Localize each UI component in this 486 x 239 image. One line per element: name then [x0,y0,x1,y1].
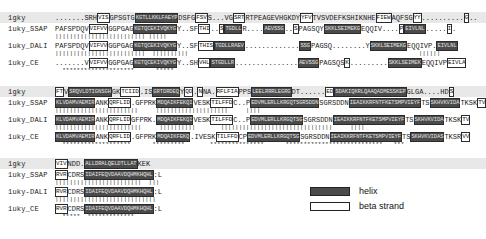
sequence-label: 1uky-DALI [0,188,55,196]
coil-segment: ......... [350,59,388,67]
sequence-residues: VIVNDD.ALLDRALQELDTLLATKEK [55,159,486,169]
helix-swatch-icon [310,187,350,196]
coil-segment: GK [112,88,120,96]
coil-segment: Y..SF [177,25,198,33]
coil-segment: TKSK [460,99,477,107]
sequence-residues: .......SRHVISGPSGTGKGTLLKKLFAEYPDSFGFSVS… [55,13,486,23]
coil-segment: GGPGAG [108,42,133,50]
sequence-residues: .......VVIFVVGGPGAGKGTQCEKIVQKYGY..SHVHL… [55,58,486,68]
beta-strand-segment: TV [461,115,470,125]
helix-segment: SKHVKVIDAS [410,132,444,142]
sequence-residues: KLVDAMVAEMIRANKQRFLID.GFPRKMDQAIKFEKQIVE… [55,98,486,108]
coil-segment: .......V [55,59,89,67]
beta-strand-segment: VV [461,132,470,142]
coil-segment: :L [154,205,162,213]
helix-segment: MDQAIKFEKQI [156,115,193,125]
beta-strand-segment: VIS [97,13,110,23]
helix-segment: EDVMLERLLKRGQTSG [247,132,300,142]
coil-segment: Y..SH [177,59,198,67]
helix-segment: EDVMLERLLKRGQTSG [250,115,303,125]
coil-segment: .. [285,25,293,33]
coil-segment: .GFPRK [131,133,156,141]
sequence-label: 1uky_CE [0,133,55,141]
legend-item-beta-strand: beta strand [310,201,404,211]
helix-segment: MDQAIKFEKQI [156,98,193,108]
sequence-residues: RVRCDRSIDAIFEQVDAAVDQHMKHQHL:L [55,204,486,214]
beta-strand-segment: S [449,87,455,97]
beta-strand-swatch-icon [310,202,350,211]
beta-strand-segment: THI [198,24,211,34]
helix-segment: IDAIFEQVDAAVDQHMKHQHL [84,170,153,180]
sequence-label: 1uky_CE [0,59,55,67]
coil-segment: PAGSQY [299,25,324,33]
helix-segment: KGTQCEKIVQKYG [133,58,177,68]
star-row-spacer [0,142,55,148]
sequence-residues: PAFSPDQVVIFVVGGPGAGKGTQCEKIVQKYGY..SFTHI… [55,41,486,51]
coil-segment: VESK [193,116,210,124]
beta-strand-segment: VIFVV [89,24,109,34]
coil-segment: CDRS [68,188,85,196]
coil-segment: ANK [95,99,108,107]
coil-segment: AQFSG [392,14,413,22]
beta-strand-segment: FIEW [376,13,392,23]
legend-label-beta-strand: beta strand [359,201,404,211]
coil-segment: ..... [426,25,447,33]
helix-segment: ALLDRALQELDTLLAT [84,159,137,169]
coil-segment: GFPRK. [131,116,156,124]
helix-segment: SKKLSEIMEKG [370,41,407,51]
coil-segment: C..P [233,99,250,107]
beta-strand-segment: QRFLID [108,98,131,108]
coil-segment: RTPEAGEVHGKDY [245,14,300,22]
coil-segment: TS [421,99,429,107]
coil-segment: ............... [235,59,298,67]
coil-segment: PAGSQ........Y [311,42,370,50]
coil-segment: SGRSDDN [319,99,348,107]
beta-strand-segment: QRFLID [108,115,131,125]
helix-segment: IEAIKKRFNTFKETSMPVIEYF [349,98,421,108]
coil-segment: . [452,25,456,33]
coil-segment: VESK [193,99,210,107]
alignment-row: 1gkyFTVSRQVLDTIGNSGHGKTCIID.ISGRTDRDEQYQ… [0,86,486,97]
helix-segment: KLVDAMVAEMIR [55,98,95,108]
helix-segment: IDAIFEQVDAAVDQHMKHQHL [84,187,153,197]
star-row-spacer [0,214,55,220]
coil-segment: .......SRH [55,14,97,22]
consensus-star-row: ******************** ***** [0,68,486,74]
helix-segment: IEAIKKRFNTFKETSMPVIEYF [330,132,402,142]
coil-segment: CDRS [68,205,85,213]
sequence-residues: KLVDAMVAEMIRANKQRFLIDGFPRK.MDQAIKFEKQIVE… [55,115,486,125]
sequence-label: 1uky_SSAP [0,171,55,179]
beta-strand-segment: RVR [55,170,68,180]
beta-strand-segment: THIS [198,41,214,51]
coil-segment: GFPRK [135,99,156,107]
sequence-label: 1uky_SSAP [0,99,55,107]
beta-strand-segment: YFV [300,13,313,23]
coil-segment: R.... [242,25,263,33]
coil-segment: TVSVDEFKSHIKNHE [313,14,376,22]
sequence-residues: FTVSRQVLDTIGNSGHGKTCIID.ISGRTDRDEQYQD.NN… [55,87,486,97]
coil-segment: SGRSDDN [303,116,332,124]
coil-segment: GGPGAG [108,25,133,33]
helix-segment: IEAIKKRFNTFKETSMPVIEYF [333,115,405,125]
coil-segment: :L [154,171,162,179]
helix-segment: AEVSSG [298,58,319,68]
sequence-alignment-figure: 1gky.......SRHVISGPSGTGKGTLLKKLFAEYPDSFG… [0,0,486,239]
helix-segment: SKHVKVIDA [414,115,445,125]
beta-strand-segment: VIFVV [89,58,109,68]
sequence-label: 1uky_DALI [0,116,55,124]
legend: helix beta strand [310,186,404,211]
coil-segment: C..P [233,116,250,124]
coil-segment: SGRSDDN [300,133,329,141]
legend-item-helix: helix [310,186,404,196]
sequence-residues: PAFSPDQVVIFVVGGPGAGKGTQCEKIVQKYGY..SFTHI… [55,24,486,34]
helix-segment: EDVMLERLLKRGQTSGRSDDN [250,98,319,108]
sequence-label: 1gky [0,14,55,22]
coil-segment: GPSGTG [110,14,135,22]
beta-strand-segment: QD [184,87,193,97]
consensus-stars: ***** ************* [55,214,486,220]
coil-segment: DT...... [292,88,326,96]
helix-segment: TGDLL [224,24,242,34]
helix-segment: KGTQCEKIVQKYG [133,41,177,51]
helix-segment: SKKLSEIMEK [388,58,422,68]
helix-segment: KGTQCEKIVQKYG [133,24,177,34]
